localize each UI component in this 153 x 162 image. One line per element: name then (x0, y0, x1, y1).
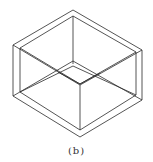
back-bottom-right-outer (73, 61, 142, 100)
top-rim-inner (20, 16, 136, 84)
back-bottom-left-inner (20, 66, 73, 92)
inner-center-right (80, 73, 100, 84)
top-rim-outer (13, 10, 142, 85)
bottom-rim-outer (13, 96, 142, 137)
inner-center-left (58, 72, 80, 84)
isometric-box-frame-diagram (0, 0, 153, 162)
figure-caption: (b) (0, 145, 153, 156)
